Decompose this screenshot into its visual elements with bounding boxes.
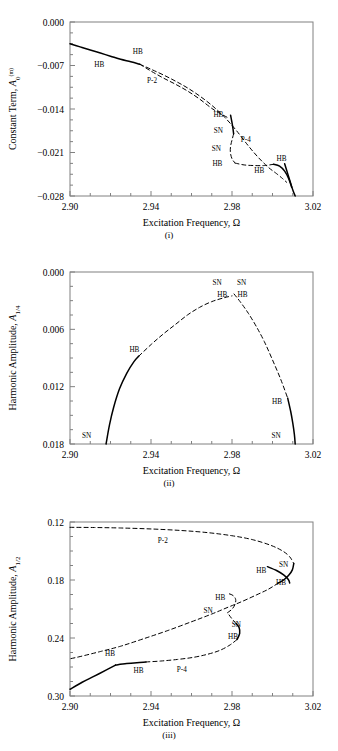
annotation-hb: HB bbox=[133, 667, 143, 675]
y-axis-label-text: Harmonic Amplitude, bbox=[7, 321, 18, 411]
curve-solid bbox=[70, 665, 116, 689]
x-tick-label: 2.98 bbox=[224, 702, 241, 712]
panel-ii-caption: (ii) bbox=[0, 478, 338, 488]
annotation-sn: SN bbox=[279, 561, 289, 569]
y-axis-label-superscript: (m) bbox=[8, 68, 15, 77]
plot-frame bbox=[70, 22, 313, 196]
x-tick-label: 2.90 bbox=[62, 450, 79, 460]
annotation-hb: HB bbox=[254, 167, 264, 175]
y-tick-label: 0.24 bbox=[47, 634, 64, 644]
bifurcation-plot-ii: 2.902.942.983.020.0180.0120.0060.000Exci… bbox=[0, 250, 338, 498]
curve-dashed bbox=[230, 134, 235, 163]
annotation-hb: HB bbox=[228, 633, 238, 641]
y-axis-label-subscript: 0 bbox=[14, 76, 22, 80]
y-axis-label-text: Constant Term, bbox=[7, 86, 18, 150]
plot-frame bbox=[70, 272, 313, 444]
curve-solid bbox=[106, 356, 139, 444]
y-tick-label: −0.021 bbox=[37, 148, 64, 158]
annotation-sn: SN bbox=[272, 432, 282, 440]
y-tick-label: 0.012 bbox=[43, 382, 65, 392]
annotation-hb: HB bbox=[133, 48, 143, 56]
annotation-hb: HB bbox=[277, 155, 287, 163]
annotation-sn: SN bbox=[212, 145, 222, 153]
annotation-hb: HB bbox=[129, 346, 139, 354]
annotation-sn: SN bbox=[82, 432, 92, 440]
y-tick-label: 0.018 bbox=[43, 440, 65, 450]
bifurcation-plot-i: 2.902.942.983.020.000−0.007−0.014−0.021−… bbox=[0, 0, 338, 250]
curve-dashed bbox=[70, 527, 294, 563]
y-axis-label: Harmonic Amplitude, A1/2 bbox=[7, 556, 22, 661]
annotation-hb: HB bbox=[256, 567, 266, 575]
annotation-hb: HB bbox=[276, 579, 286, 587]
x-axis-label: Excitation Frequency, Ω bbox=[143, 465, 241, 476]
annotation-hb: HB bbox=[212, 160, 222, 168]
x-axis-label: Excitation Frequency, Ω bbox=[143, 717, 241, 728]
annotation-hb: HB bbox=[238, 291, 248, 299]
curve-solid bbox=[231, 115, 234, 134]
panel-i-caption: (i) bbox=[0, 230, 338, 240]
y-axis-label: Harmonic Amplitude, A1/4 bbox=[7, 305, 22, 410]
y-tick-label: 0.000 bbox=[43, 268, 65, 278]
panel-ii-harmonic-amplitude-quarter: 2.902.942.983.020.0180.0120.0060.000Exci… bbox=[0, 250, 338, 498]
y-tick-label: −0.014 bbox=[37, 105, 64, 115]
y-tick-label: 0.12 bbox=[47, 518, 64, 528]
annotation-hb: HB bbox=[94, 61, 104, 69]
x-tick-label: 2.94 bbox=[143, 202, 160, 212]
annotation-hb: HB bbox=[217, 291, 227, 299]
y-tick-label: 0.30 bbox=[47, 692, 64, 702]
curve-solid bbox=[116, 662, 146, 665]
curve-dashed bbox=[140, 64, 228, 117]
y-axis-label-text: Harmonic Amplitude, bbox=[7, 572, 18, 662]
x-tick-label: 2.98 bbox=[224, 202, 241, 212]
curve-dashed bbox=[146, 639, 237, 662]
panel-i-constant-term: 2.902.942.983.020.000−0.007−0.014−0.021−… bbox=[0, 0, 338, 250]
curve-dashed bbox=[235, 163, 273, 166]
annotation-sn: SN bbox=[213, 279, 223, 287]
y-axis-label-subscript: 1/2 bbox=[14, 556, 22, 565]
x-tick-label: 3.02 bbox=[305, 450, 322, 460]
x-tick-label: 2.94 bbox=[143, 702, 160, 712]
panel-iii-harmonic-amplitude-half: 2.902.942.983.020.300.240.180.12Excitati… bbox=[0, 498, 338, 751]
annotation-hb: HB bbox=[213, 111, 223, 119]
y-axis-label-subscript: 1/4 bbox=[14, 305, 22, 314]
curve-dashed bbox=[228, 594, 236, 613]
panel-iii-caption: (iii) bbox=[0, 730, 338, 740]
y-tick-label: −0.007 bbox=[37, 61, 64, 71]
x-tick-label: 3.02 bbox=[305, 202, 322, 212]
x-tick-label: 2.90 bbox=[62, 702, 79, 712]
x-tick-label: 2.90 bbox=[62, 202, 79, 212]
curve-dashed bbox=[70, 583, 278, 659]
annotation-sn: SN bbox=[204, 607, 214, 615]
y-axis-label: Constant Term, A0(m) bbox=[7, 68, 22, 150]
y-tick-label: 0.18 bbox=[47, 576, 64, 586]
annotation-p2: P-2 bbox=[147, 77, 157, 85]
annotation-p4: P-4 bbox=[177, 666, 187, 674]
annotation-sn: SN bbox=[214, 127, 224, 135]
annotation-sn: SN bbox=[237, 279, 247, 287]
x-axis-label: Excitation Frequency, Ω bbox=[143, 217, 241, 228]
x-tick-label: 2.98 bbox=[224, 450, 241, 460]
curve-dashed bbox=[234, 294, 288, 398]
curve-solid bbox=[70, 44, 140, 65]
curve-dashed bbox=[139, 296, 232, 356]
y-tick-label: 0.000 bbox=[43, 18, 65, 28]
annotation-hb: HB bbox=[272, 398, 282, 406]
x-tick-label: 2.94 bbox=[143, 450, 160, 460]
annotation-hb: HB bbox=[215, 594, 225, 602]
y-tick-label: 0.006 bbox=[43, 325, 65, 335]
curve-solid bbox=[288, 398, 295, 444]
annotation-sn: SN bbox=[232, 621, 242, 629]
annotation-hb: HB bbox=[105, 650, 115, 658]
annotation-p2: P-2 bbox=[158, 537, 168, 545]
x-tick-label: 3.02 bbox=[305, 702, 322, 712]
annotation-p4: P-4 bbox=[241, 136, 251, 144]
bifurcation-plot-iii: 2.902.942.983.020.300.240.180.12Excitati… bbox=[0, 498, 338, 751]
y-tick-label: −0.028 bbox=[37, 192, 64, 202]
